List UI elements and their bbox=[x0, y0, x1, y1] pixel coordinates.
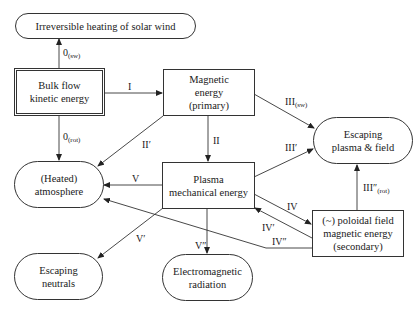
edge-III-prime bbox=[254, 149, 313, 177]
edge-label-IV-prime: IV′ bbox=[262, 222, 275, 233]
edge-label-base: IV′ bbox=[262, 222, 275, 233]
edge-label-I: I bbox=[128, 81, 131, 92]
node-label: (secondary) bbox=[333, 240, 383, 253]
node-label: kinetic energy bbox=[30, 92, 90, 105]
node-label: neutrals bbox=[42, 277, 75, 290]
node-electromagnetic-radiation: Electromagnetic radiation bbox=[162, 254, 253, 301]
node-label: Magnetic bbox=[189, 73, 229, 86]
node-label: magnetic energy bbox=[323, 227, 393, 240]
node-label: plasma & field bbox=[332, 141, 394, 154]
edge-label-base: I bbox=[128, 81, 131, 92]
edge-label-base: V′ bbox=[136, 233, 145, 244]
node-label: Escaping bbox=[344, 128, 383, 141]
node-label: Irreversible heating of solar wind bbox=[36, 20, 176, 33]
edge-label-sub: (rot) bbox=[68, 136, 80, 144]
edge-label-base: II′ bbox=[142, 139, 151, 150]
edge-label-III-prime: III′ bbox=[285, 142, 297, 153]
node-escaping-plasma-field: Escaping plasma & field bbox=[313, 117, 413, 164]
edge-label-base: IV bbox=[287, 201, 298, 212]
edge-label-sub: (rot) bbox=[377, 187, 389, 195]
edge-label-II-prime: II′ bbox=[142, 139, 151, 150]
edge-label-base: IV″ bbox=[272, 236, 287, 247]
node-label: (~) poloidal field bbox=[322, 214, 394, 227]
edge-label-III-dprime-rot: III″(rot) bbox=[363, 182, 390, 197]
node-label: Plasma bbox=[193, 173, 223, 186]
edge-label-V: V bbox=[132, 173, 139, 184]
edge-label-II: II bbox=[213, 135, 220, 146]
edge-label-III-sw: III(sw) bbox=[285, 96, 307, 111]
node-label: Escaping bbox=[39, 264, 78, 277]
edge-label-sub: (sw) bbox=[68, 52, 80, 60]
edge-V-prime bbox=[98, 208, 163, 258]
edge-label-sub: (sw) bbox=[295, 101, 307, 109]
node-bulk-flow-kinetic-energy: Bulk flow kinetic energy bbox=[14, 68, 105, 116]
node-irreversible-heating: Irreversible heating of solar wind bbox=[15, 13, 196, 39]
edge-label-V-prime: V′ bbox=[136, 233, 145, 244]
node-magnetic-energy-primary: Magnetic energy (primary) bbox=[163, 69, 255, 116]
edge-label-0-sw: 0(sw) bbox=[63, 47, 80, 62]
node-label: Bulk flow bbox=[38, 79, 80, 92]
node-label: (primary) bbox=[189, 99, 229, 112]
edge-label-base: II bbox=[213, 135, 220, 146]
edge-label-base: III″ bbox=[363, 182, 377, 193]
edge-II-prime bbox=[98, 116, 163, 166]
node-heated-atmosphere: (Heated) atmosphere bbox=[14, 161, 104, 208]
edge-label-0-rot: 0(rot) bbox=[63, 131, 80, 146]
edge-label-base: V bbox=[132, 173, 139, 184]
node-label: Electromagnetic bbox=[173, 265, 242, 278]
edge-label-IV: IV bbox=[287, 201, 298, 212]
node-label: radiation bbox=[189, 278, 226, 291]
edge-label-IV-dprime: IV″ bbox=[272, 236, 287, 247]
node-plasma-mechanical-energy: Plasma mechanical energy bbox=[162, 162, 255, 209]
edge-label-V-dprime: V″ bbox=[195, 240, 206, 251]
edge-label-base: V″ bbox=[195, 240, 206, 251]
edge-label-base: III′ bbox=[285, 142, 297, 153]
edge-label-base: III bbox=[285, 96, 295, 107]
node-label: mechanical energy bbox=[169, 186, 248, 199]
edge-IV bbox=[254, 194, 311, 224]
node-label: (Heated) bbox=[41, 172, 78, 185]
node-escaping-neutrals: Escaping neutrals bbox=[14, 253, 103, 300]
node-label: energy bbox=[195, 86, 223, 99]
node-poloidal-field-magnetic-energy: (~) poloidal field magnetic energy (seco… bbox=[312, 210, 404, 257]
node-label: atmosphere bbox=[35, 185, 83, 198]
